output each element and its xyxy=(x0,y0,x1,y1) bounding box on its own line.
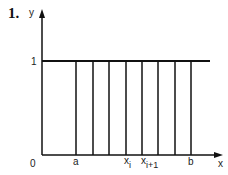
riemann-partition-diagram: y 1 0 a xi xi+1 b x xyxy=(0,0,228,175)
x-axis-label: x xyxy=(218,158,223,169)
x-label-xi-plus-1: xi+1 xyxy=(141,155,158,170)
y-axis-arrow-icon xyxy=(39,9,45,18)
x-label-a: a xyxy=(73,156,79,167)
origin-label: 0 xyxy=(30,158,36,169)
partition-lines xyxy=(76,61,191,155)
x-label-xi: xi xyxy=(124,155,131,170)
y-axis-label: y xyxy=(29,7,34,18)
x-label-b: b xyxy=(188,156,194,167)
y-tick-1: 1 xyxy=(31,56,37,67)
